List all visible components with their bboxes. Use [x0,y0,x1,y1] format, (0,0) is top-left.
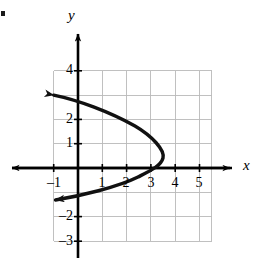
x-tick-label-5: 5 [190,176,208,190]
x-axis-label: x [243,158,250,173]
y-tick-label-neg2: –2 [49,209,73,223]
y-tick-label-2: 2 [57,112,73,126]
x-tick-label-3: 3 [142,176,160,190]
graph-figure: y x –1 1 2 3 4 5 4 2 1 –2 –3 [0,0,259,263]
axis-lines [12,34,232,258]
y-tick-label-4: 4 [57,63,73,77]
x-tick-label-4: 4 [166,176,184,190]
y-axis-label: y [68,8,75,23]
x-tick-label-1: 1 [93,176,111,190]
y-tick-label-neg3: –3 [49,234,73,248]
x-tick-label-2: 2 [117,176,135,190]
coordinate-plane [0,0,259,263]
y-tick-label-1: 1 [57,136,73,150]
x-tick-label-neg1: –1 [43,176,65,190]
